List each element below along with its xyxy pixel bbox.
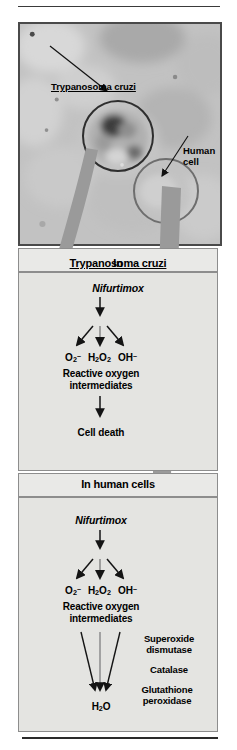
ros-group-label-trypanosoma: Reactive oxygen intermediates xyxy=(19,368,217,391)
ros-peroxide-tc: H2O2 xyxy=(88,352,111,364)
outcome-water-formula: H2O xyxy=(92,701,111,712)
roi-line2-hc: intermediates xyxy=(69,613,132,624)
ros-superoxide-hc: O2– xyxy=(65,584,81,597)
section-header-human: In human cells xyxy=(18,473,218,497)
enzyme-1-line2: dismutase xyxy=(146,644,192,655)
section-header-human-text: In human cells xyxy=(19,478,217,490)
enzyme-catalase: Catalase xyxy=(125,664,213,675)
bottom-rule xyxy=(22,737,218,739)
pathway-panel-trypanosoma: Nifurtimox O2–H2O2OH– Reactive oxygen in… xyxy=(18,272,218,471)
ros-group-label-human: Reactive oxygen intermediates xyxy=(19,601,217,624)
roi-line1-tc: Reactive oxygen xyxy=(63,368,140,379)
enzyme-3-line1: Glutathione xyxy=(141,684,192,695)
enzyme-1-line1: Superoxide xyxy=(144,633,194,644)
ros-peroxide-hc: H2O2 xyxy=(88,585,111,597)
figure-root: Trypanosoma cruzi Human cell In Trypanos… xyxy=(0,0,237,750)
ros-hydroxyl-tc: OH– xyxy=(118,351,137,363)
roi-line2-tc: intermediates xyxy=(69,380,132,391)
outcome-trypanosoma: Cell death xyxy=(19,427,217,438)
outcome-human: H2O xyxy=(19,701,217,713)
header-organism-tc: Trypanosoma cruzi xyxy=(19,257,217,269)
ros-superoxide-tc: O2– xyxy=(65,351,81,364)
section-header-trypanosoma: In Trypanosoma cruzi xyxy=(18,248,218,272)
ros-species-row-trypanosoma: O2–H2O2OH– xyxy=(19,351,217,364)
ros-species-row-human: O2–H2O2OH– xyxy=(19,584,217,597)
pathway-panel-human: Nifurtimox O2–H2O2OH– Reactive oxygen in… xyxy=(18,497,218,732)
enzyme-superoxide-dismutase: Superoxide dismutase xyxy=(125,633,213,655)
ros-hydroxyl-hc: OH– xyxy=(118,584,137,596)
roi-line1-hc: Reactive oxygen xyxy=(63,601,140,612)
enzyme-2-line1: Catalase xyxy=(150,664,188,675)
